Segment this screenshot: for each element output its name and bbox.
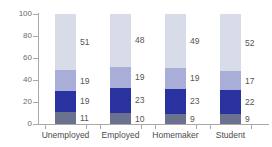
bar-segment[interactable]: 17 [220,71,241,90]
bar-segment-value-label: 23 [135,96,144,105]
bar-segment[interactable]: 9 [220,114,241,124]
y-axis-tick-label: 100 [2,10,32,18]
bar-segment-value-label: 10 [135,114,144,123]
x-axis-tick [100,125,101,129]
y-axis-tick [33,102,38,103]
bar-group[interactable]: 9231949 [165,14,186,124]
bar-group[interactable]: 9221752 [220,14,241,124]
y-axis-line [38,13,39,125]
bar-segment[interactable]: 19 [110,67,131,88]
y-axis-tick [33,58,38,59]
bar-segment-value-label: 19 [80,97,89,106]
bar-segment[interactable]: 48 [110,14,131,67]
x-axis-tick [141,125,142,129]
x-axis-line [38,124,269,125]
x-axis-tick [251,125,252,129]
bar-segment[interactable]: 52 [220,14,241,71]
bar-segment[interactable]: 19 [165,68,186,89]
bar-group[interactable]: 10231948 [110,14,131,124]
bar-segment-value-label: 48 [135,36,144,45]
bar-segment-value-label: 23 [190,97,199,106]
category-label: Homemaker [146,130,206,140]
y-axis-tick-label: 0 [2,120,32,128]
bar-segment-value-label: 52 [245,38,254,47]
bar-segment-value-label: 9 [190,115,195,124]
x-axis-tick [155,125,156,129]
bar-segment[interactable]: 22 [220,90,241,114]
bar-segment-value-label: 17 [245,76,254,85]
bar-stack: 11191951 [55,14,76,124]
bar-segment-value-label: 51 [80,38,89,47]
bar-segment-value-label: 22 [245,98,254,107]
bar-segment-value-label: 11 [80,113,89,122]
x-axis-tick [196,125,197,129]
bar-stack: 9231949 [165,14,186,124]
stacked-bar-chart: 020406080100 111919511023194892319499221… [0,0,272,147]
bar-segment-value-label: 19 [135,73,144,82]
plot-area: 020406080100 111919511023194892319499221… [0,0,272,147]
category-label: Employed [91,130,151,140]
x-axis-tick [45,125,46,129]
y-axis-tick [33,14,38,15]
bar-stack: 10231948 [110,14,131,124]
category-label: Unemployed [36,130,96,140]
category-label: Student [201,130,261,140]
y-axis-tick [33,80,38,81]
y-axis-tick-label: 60 [2,54,32,62]
bar-segment-value-label: 49 [190,36,199,45]
bar-segment[interactable]: 19 [55,70,76,91]
y-axis-tick-label: 40 [2,76,32,84]
x-axis-tick [86,125,87,129]
y-axis-tick [33,124,38,125]
bar-group[interactable]: 11191951 [55,14,76,124]
bar-segment[interactable]: 11 [55,112,76,124]
x-axis-tick [210,125,211,129]
bar-segment-value-label: 19 [80,76,89,85]
bar-segment-value-label: 9 [245,115,250,124]
bar-segment[interactable]: 49 [165,14,186,68]
y-axis-tick [33,36,38,37]
y-axis-tick-label: 20 [2,98,32,106]
bar-segment[interactable]: 9 [165,114,186,124]
bar-segment[interactable]: 10 [110,113,131,124]
bar-stack: 9221752 [220,14,241,124]
y-axis-tick-label: 80 [2,32,32,40]
bar-segment[interactable]: 23 [110,88,131,113]
bar-segment-value-label: 19 [190,74,199,83]
bar-segment[interactable]: 51 [55,14,76,70]
bar-segment[interactable]: 23 [165,89,186,114]
bar-segment[interactable]: 19 [55,91,76,112]
